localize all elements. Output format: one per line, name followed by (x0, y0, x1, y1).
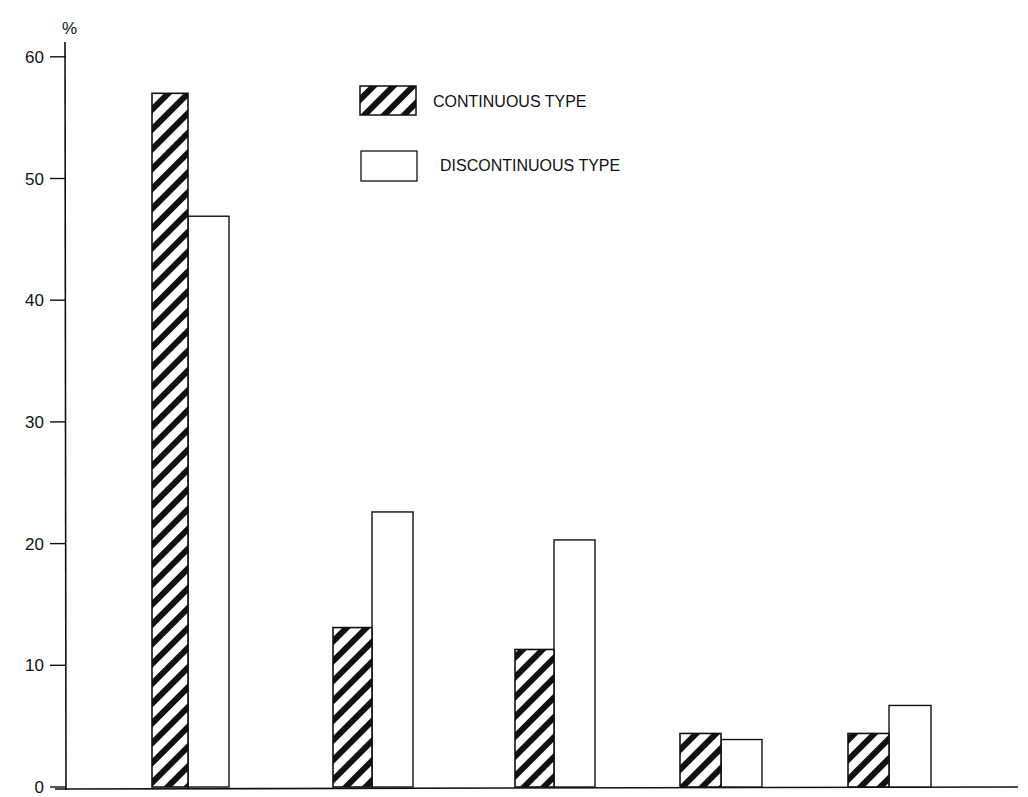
y-tick-label: 0 (35, 778, 44, 797)
legend: CONTINUOUS TYPE DISCONTINUOUS TYPE (360, 86, 620, 181)
y-axis-unit: % (62, 19, 77, 38)
bar-continuous (680, 733, 721, 787)
bar-chart: % 0102030405060 CONTINUOUS TYPE DISCONTI… (0, 0, 1028, 797)
bar-continuous (152, 93, 188, 787)
hatched-swatch-icon (360, 86, 416, 115)
legend-item-discontinuous: DISCONTINUOUS TYPE (361, 151, 620, 181)
bar-group-1 (152, 93, 229, 787)
bar-group-3 (515, 540, 595, 787)
y-tick-label: 30 (25, 413, 44, 432)
y-axis: % 0102030405060 (25, 19, 77, 797)
y-tick-label: 40 (25, 291, 44, 310)
bar-discontinuous (721, 740, 762, 787)
bar-group-2 (333, 512, 413, 787)
bar-discontinuous (554, 540, 595, 787)
legend-label-discontinuous: DISCONTINUOUS TYPE (440, 157, 620, 174)
bar-continuous (515, 649, 554, 787)
y-tick-label: 20 (25, 535, 44, 554)
bar-group-4 (680, 733, 762, 787)
bar-group-5 (848, 705, 931, 787)
bar-continuous (848, 733, 889, 787)
legend-item-continuous: CONTINUOUS TYPE (360, 86, 587, 115)
bar-discontinuous (372, 512, 413, 787)
bars (152, 93, 931, 787)
bar-continuous (333, 628, 372, 787)
y-tick-label: 60 (25, 48, 44, 67)
open-swatch-icon (361, 151, 417, 181)
bar-discontinuous (188, 216, 229, 787)
bar-discontinuous (889, 705, 931, 787)
legend-label-continuous: CONTINUOUS TYPE (433, 93, 587, 110)
y-tick-label: 50 (25, 170, 44, 189)
y-tick-label: 10 (25, 656, 44, 675)
